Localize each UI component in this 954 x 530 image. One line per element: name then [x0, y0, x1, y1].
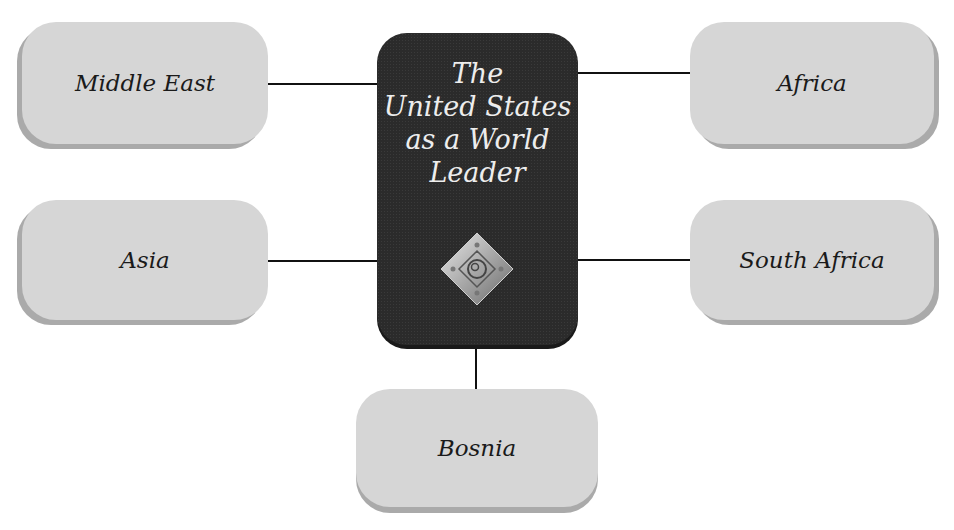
node-label: South Africa — [739, 247, 884, 273]
center-node: The United States as a World Leader — [377, 33, 578, 345]
connector-south-africa — [577, 259, 690, 261]
ornamental-diamond-emblem-icon — [439, 231, 515, 307]
node-label: Middle East — [75, 70, 215, 96]
center-title-line: United States — [377, 90, 578, 123]
node-bosnia: Bosnia — [356, 389, 598, 507]
connector-middle-east — [268, 83, 378, 85]
center-title: The United States as a World Leader — [377, 57, 578, 189]
center-title-line: The — [377, 57, 578, 90]
connector-bosnia — [475, 345, 477, 390]
node-middle-east: Middle East — [22, 22, 268, 144]
node-label: Asia — [120, 247, 169, 273]
node-asia: Asia — [22, 200, 268, 320]
node-africa: Africa — [690, 22, 934, 144]
center-title-line: as a World — [377, 123, 578, 156]
connector-africa — [577, 72, 690, 74]
center-title-line: Leader — [377, 156, 578, 189]
connector-asia — [268, 260, 378, 262]
node-south-africa: South Africa — [690, 200, 934, 320]
node-label: Africa — [777, 70, 847, 96]
node-label: Bosnia — [438, 435, 516, 461]
